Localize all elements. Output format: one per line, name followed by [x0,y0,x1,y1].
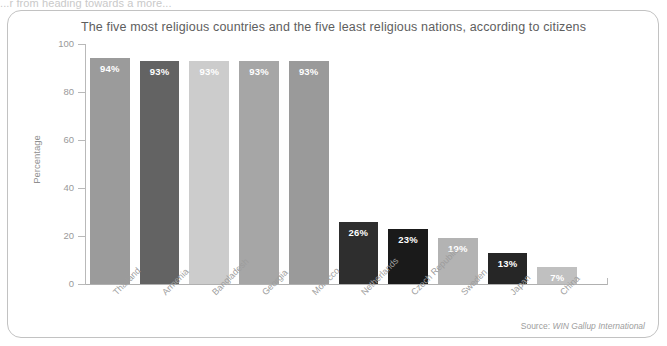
bar-series: 94%93%93%93%93%26%23%19%13%7% [85,44,608,284]
bar-value-label: 94% [90,63,130,74]
source-name: WIN Gallup International [552,321,645,331]
chart-screenshot: ...r from heading towards a more... The … [0,0,667,346]
source-prefix: Source: [521,321,553,331]
bar-value-label: 23% [388,234,428,245]
y-tick-label: 60 [46,134,74,145]
source-attribution: Source: WIN Gallup International [521,321,645,331]
bar-value-label: 26% [339,227,379,238]
bar-value-label: 93% [140,66,180,77]
y-tick-label: 0 [46,278,74,289]
bar-value-label: 93% [189,66,229,77]
y-axis-title: Percentage [31,120,42,200]
bar-bangladesh: 93% [189,61,229,284]
bar-georgia: 93% [239,61,279,284]
bar-morocco: 93% [289,61,329,284]
y-tick-label: 40 [46,182,74,193]
bar-thailand: 94% [90,58,130,284]
bar-value-label: 93% [239,66,279,77]
bar-value-label: 13% [488,258,528,269]
bar-netherlands: 26% [339,222,379,284]
y-tick-label: 100 [46,38,74,49]
bar-value-label: 93% [289,66,329,77]
bar-armenia: 93% [140,61,180,284]
plot-area: Percentage 020406080100 94%93%93%93%93%2… [0,0,667,346]
y-tick-mark [78,284,86,285]
y-tick-label: 20 [46,230,74,241]
y-tick-label: 80 [46,86,74,97]
